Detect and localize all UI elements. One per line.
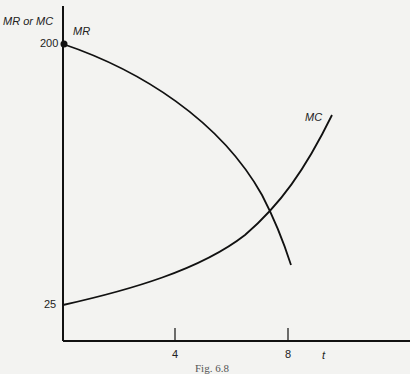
mc-curve — [63, 115, 332, 305]
mr-intercept-dot — [61, 41, 68, 48]
y-tick-label-25: 25 — [44, 298, 56, 310]
y-axis-label: MR or MC — [3, 15, 53, 27]
mc-curve-label: MC — [305, 111, 322, 123]
x-axis-label: t — [322, 349, 325, 361]
chart-figure: MR or MC MR MC 200 25 4 8 t Fig. 6.8 — [0, 0, 410, 374]
y-tick-label-200: 200 — [40, 37, 58, 49]
figure-caption: Fig. 6.8 — [195, 362, 229, 374]
chart-plot — [0, 0, 410, 374]
x-tick-label-8: 8 — [285, 348, 291, 360]
mr-curve-label: MR — [73, 25, 90, 37]
x-tick-label-4: 4 — [172, 348, 178, 360]
mr-curve — [63, 44, 291, 265]
